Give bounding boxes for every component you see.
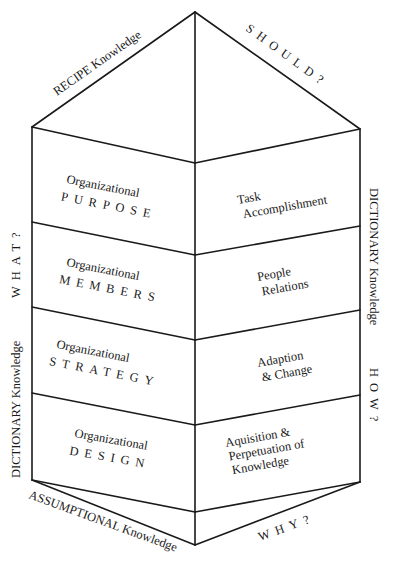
assumptional-knowledge-label: ASSUMPTIONAL Knowledge bbox=[27, 488, 180, 555]
recipe-knowledge-label: RECIPE Knowledge bbox=[51, 27, 144, 98]
how-question-label: HOW? bbox=[367, 368, 381, 427]
roof-right-edge bbox=[195, 12, 360, 129]
roof-left-edge bbox=[32, 12, 195, 127]
right-panel-adaption-change: Adaption & Change bbox=[256, 347, 314, 385]
what-question-label: WHAT? bbox=[9, 226, 23, 298]
why-label: WHY? bbox=[256, 510, 317, 543]
left-panel-members: Organizational MEMBERS bbox=[58, 254, 165, 305]
right-panel-acquisition-knowledge: Aquisition & Perpetuation of Knowledge bbox=[224, 423, 309, 478]
left-panel-purpose: Organizational PURPOSE bbox=[60, 172, 161, 222]
right-panel-people-relations: People Relations bbox=[256, 262, 310, 299]
right-side-label: DICTIONARY Knowledge HOW? bbox=[367, 188, 381, 427]
left-panel-design: Organizational DESIGN bbox=[68, 426, 154, 472]
diagram-canvas: RECIPE Knowledge SHOULD? DICTIONARY Know… bbox=[0, 0, 395, 579]
knowledge-prism-diagram: RECIPE Knowledge SHOULD? DICTIONARY Know… bbox=[0, 0, 395, 579]
left-panel-strategy: Organizational STRATEGY bbox=[48, 336, 164, 389]
left-side-label: DICTIONARY Knowledge WHAT? bbox=[9, 226, 23, 478]
dictionary-knowledge-how-prefix: DICTIONARY Knowledge bbox=[367, 188, 381, 326]
dictionary-knowledge-what-prefix: DICTIONARY Knowledge bbox=[9, 340, 23, 478]
right-panel-task-accomplishment: Task Accomplishment bbox=[236, 178, 329, 222]
